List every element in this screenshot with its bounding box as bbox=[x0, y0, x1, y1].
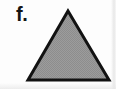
panel-label: f. bbox=[16, 4, 27, 24]
figure-canvas: f. bbox=[0, 0, 116, 89]
triangle-shape bbox=[28, 11, 109, 80]
